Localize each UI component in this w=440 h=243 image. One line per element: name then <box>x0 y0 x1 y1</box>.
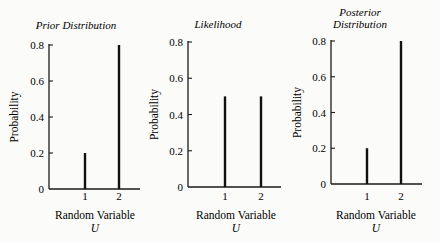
chart-3-x-tick-label: 1 <box>364 190 370 202</box>
chart-1-x-label-symbol: U <box>91 222 100 234</box>
chart-1-y-tick-label: 0.2 <box>30 147 44 159</box>
chart-3-x-label: Random Variable <box>336 209 416 221</box>
chart-2-y-tick-label: 0.6 <box>169 72 183 84</box>
chart-3-y-tick-label: 0.2 <box>312 142 326 154</box>
chart-3-y-tick-label: 0.4 <box>312 107 326 119</box>
chart-2-title: Likelihood <box>193 18 242 30</box>
chart-2-x-tick-label: 1 <box>222 190 228 202</box>
chart-3-y-tick-label: 0.6 <box>312 71 326 83</box>
chart-2-y-label: Probability <box>148 89 161 140</box>
chart-figure: Prior Distribution00.20.40.60.812Probabi… <box>0 0 440 243</box>
chart-1-y-tick-label: 0.8 <box>30 39 44 51</box>
chart-2-y-tick-label: 0.4 <box>169 109 183 121</box>
chart-3-y-tick-label: 0.8 <box>312 35 326 47</box>
chart-1-y-tick-label: 0.4 <box>30 111 44 123</box>
chart-3-title: Distribution <box>332 18 387 30</box>
chart-2-x-label: Random Variable <box>196 209 276 221</box>
chart-3-y-label: Probability <box>291 87 304 138</box>
chart-2-y-tick-label: 0 <box>178 181 184 193</box>
chart-1-x-tick-label: 2 <box>116 190 122 202</box>
chart-1-x-tick-label: 1 <box>82 190 88 202</box>
chart-2-x-tick-label: 2 <box>258 190 264 202</box>
chart-3-y-tick-label: 0 <box>321 178 327 190</box>
chart-2-y-tick-label: 0.2 <box>169 145 183 157</box>
chart-2-y-tick-label: 0.8 <box>169 36 183 48</box>
chart-3-x-tick-label: 2 <box>398 190 404 202</box>
chart-1-x-label: Random Variable <box>55 209 135 221</box>
charts-canvas: Prior Distribution00.20.40.60.812Probabi… <box>0 0 440 243</box>
chart-3-x-label-symbol: U <box>372 222 381 234</box>
chart-3-title: Posterior <box>338 6 381 18</box>
chart-1-title: Prior Distribution <box>35 19 117 31</box>
chart-1-y-tick-label: 0 <box>39 183 45 195</box>
chart-1-y-label: Probability <box>8 91 21 142</box>
chart-2-x-label-symbol: U <box>232 222 241 234</box>
chart-1-y-tick-label: 0.6 <box>30 75 44 87</box>
